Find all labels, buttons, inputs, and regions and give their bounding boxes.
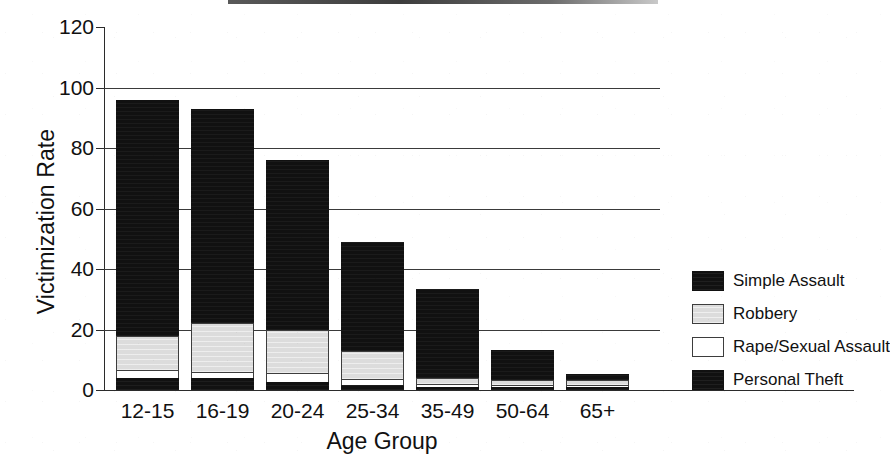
bar-segment-65-personal-theft[interactable] — [566, 387, 629, 390]
legend-swatch-simple-assault — [692, 271, 724, 291]
bar-16-19[interactable] — [191, 109, 254, 390]
bar-segment-20-24-robbery[interactable] — [266, 330, 329, 374]
bar-segment-35-49-simple-assault[interactable] — [416, 289, 479, 378]
bar-25-34[interactable] — [341, 242, 404, 390]
legend-item-personal-theft[interactable]: Personal Theft — [692, 363, 890, 396]
baseline — [104, 390, 660, 391]
bar-segment-25-34-simple-assault[interactable] — [341, 242, 404, 351]
gridline-60 — [104, 209, 660, 210]
legend-item-robbery[interactable]: Robbery — [692, 297, 890, 330]
bar-segment-12-15-personal-theft[interactable] — [116, 378, 179, 390]
bar-segment-16-19-robbery[interactable] — [191, 323, 254, 371]
bar-35-49[interactable] — [416, 289, 479, 390]
bar-segment-16-19-simple-assault[interactable] — [191, 109, 254, 324]
y-tick-label-20: 20 — [4, 319, 94, 340]
bar-12-15[interactable] — [116, 100, 179, 390]
legend-label-robbery: Robbery — [733, 304, 797, 324]
bar-segment-50-64-personal-theft[interactable] — [491, 387, 554, 390]
bar-segment-25-34-robbery[interactable] — [341, 351, 404, 380]
y-tick-mark-80 — [96, 148, 104, 149]
bar-segment-12-15-simple-assault[interactable] — [116, 100, 179, 336]
legend-swatch-rape-sexual-assault — [692, 337, 724, 357]
legend-label-rape-sexual-assault: Rape/Sexual Assault — [733, 337, 890, 357]
bar-segment-12-15-robbery[interactable] — [116, 336, 179, 371]
legend-swatch-robbery — [692, 304, 724, 324]
legend: Simple AssaultRobberyRape/Sexual Assault… — [692, 264, 890, 396]
y-tick-mark-120 — [96, 27, 104, 28]
bar-segment-20-24-personal-theft[interactable] — [266, 382, 329, 390]
bar-segment-50-64-simple-assault[interactable] — [491, 350, 554, 380]
legend-label-personal-theft: Personal Theft — [733, 370, 843, 390]
legend-swatch-personal-theft — [692, 370, 724, 390]
y-tick-label-60: 60 — [4, 198, 94, 219]
legend-item-rape-sexual-assault[interactable]: Rape/Sexual Assault — [692, 330, 890, 363]
y-tick-mark-60 — [96, 209, 104, 210]
bar-segment-25-34-personal-theft[interactable] — [341, 385, 404, 390]
legend-label-simple-assault: Simple Assault — [733, 271, 845, 291]
y-tick-label-120: 120 — [4, 16, 94, 37]
plot-area — [104, 27, 660, 390]
y-tick-label-40: 40 — [4, 258, 94, 279]
bar-50-64[interactable] — [491, 350, 554, 390]
bar-segment-12-15-rape-sexual-assault[interactable] — [116, 370, 179, 378]
y-tick-label-0: 0 — [4, 379, 94, 400]
gridline-100 — [104, 88, 660, 89]
y-tick-label-100: 100 — [4, 77, 94, 98]
y-tick-mark-100 — [96, 88, 104, 89]
gridline-80 — [104, 148, 660, 149]
bar-20-24[interactable] — [266, 160, 329, 390]
bar-65[interactable] — [566, 374, 629, 390]
bar-segment-16-19-personal-theft[interactable] — [191, 378, 254, 390]
x-axis-title: Age Group — [104, 428, 660, 455]
bar-segment-20-24-rape-sexual-assault[interactable] — [266, 373, 329, 382]
stacked-bar-chart: Victimization Rate 020406080100120 12-15… — [0, 0, 890, 459]
legend-item-simple-assault[interactable]: Simple Assault — [692, 264, 890, 297]
bar-segment-35-49-personal-theft[interactable] — [416, 387, 479, 390]
y-tick-mark-20 — [96, 330, 104, 331]
y-tick-label-80: 80 — [4, 137, 94, 158]
bar-segment-20-24-simple-assault[interactable] — [266, 160, 329, 329]
y-axis-tick-group: 020406080100120 — [0, 0, 94, 459]
x-tick-label-65: 65+ — [553, 399, 643, 423]
y-tick-mark-0 — [96, 390, 104, 391]
y-tick-mark-40 — [96, 269, 104, 270]
